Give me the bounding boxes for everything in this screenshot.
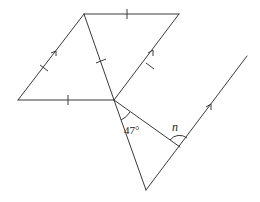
- angle-label-47: 47°: [124, 124, 139, 136]
- edge-left: [18, 14, 84, 100]
- angle-arc-47: [121, 112, 130, 120]
- edge-right: [114, 14, 179, 100]
- angle-label-n: n: [172, 120, 178, 134]
- diagonal: [84, 14, 114, 100]
- geometry-diagram: 47° n: [0, 0, 260, 202]
- line-o-to-p: [114, 100, 146, 190]
- tick-mark-right: [146, 63, 154, 69]
- long-parallel-line: [146, 56, 247, 190]
